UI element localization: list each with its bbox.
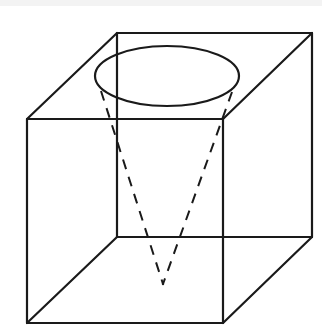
cube-back-face [117,33,312,237]
depth-edge-top-right [223,33,312,119]
cube-cone-diagram [0,0,322,334]
depth-edge-bottom-right [223,237,312,323]
depth-edge-top-left [27,33,117,119]
cube-depth-edges [27,33,312,323]
cone-apex [162,283,164,285]
cone-right-generator [163,92,232,284]
depth-edge-bottom-left [27,237,117,323]
cube-front-face [27,119,223,323]
